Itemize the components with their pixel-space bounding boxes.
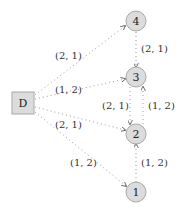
edge-label-2-3: (1, 2) <box>148 100 175 111</box>
edge-label-d-3: (1, 2) <box>55 84 82 95</box>
edge-label-1-2: (1, 2) <box>141 157 168 168</box>
node-1-label: 1 <box>133 186 140 199</box>
edge-label-d-1: (1, 2) <box>70 157 97 168</box>
edge-label-4-3: (2, 1) <box>141 43 168 54</box>
edge-label-3-2: (2, 1) <box>102 100 129 111</box>
node-4-label: 4 <box>133 15 140 28</box>
source-node-label: D <box>19 97 28 110</box>
node-2-label: 2 <box>133 128 140 141</box>
edge-label-d-2: (2, 1) <box>55 119 82 130</box>
edge-label-d-4: (2, 1) <box>55 50 82 61</box>
node-3-label: 3 <box>133 71 140 84</box>
diagram-canvas: (2, 1) (1, 2) (2, 1) (1, 2) (2, 1) (2, 1… <box>0 0 181 215</box>
